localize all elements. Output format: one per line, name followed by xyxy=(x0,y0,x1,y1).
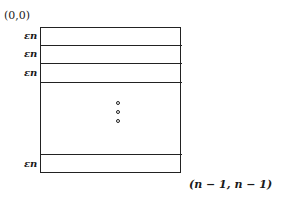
origin-label: (0,0) xyxy=(4,10,30,21)
strip-divider-4 xyxy=(40,154,182,155)
ellipsis-dot-3 xyxy=(116,119,120,123)
strip-label-2: εn xyxy=(24,49,37,59)
strip-label-3: εn xyxy=(24,68,37,78)
matrix-box xyxy=(40,27,181,173)
ellipsis-dot-1 xyxy=(116,101,120,105)
ellipsis-dot-2 xyxy=(116,110,120,114)
strip-divider-1 xyxy=(40,45,182,46)
strip-divider-3 xyxy=(40,82,182,83)
strip-label-4: εn xyxy=(24,159,37,169)
corner-label: (n − 1, n − 1) xyxy=(189,179,272,190)
strip-divider-2 xyxy=(40,63,182,64)
strip-label-1: εn xyxy=(24,31,37,41)
